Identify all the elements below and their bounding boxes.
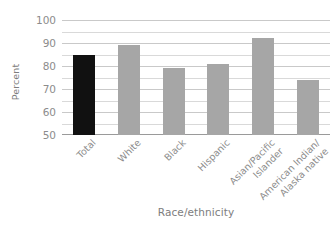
x-axis-tick-labels: TotalWhiteBlackHispanicAsian/Pacific Isl… (62, 135, 330, 207)
plot-area (62, 20, 330, 135)
bar-series (62, 20, 330, 135)
bar[interactable] (118, 45, 140, 135)
bar[interactable] (163, 68, 185, 135)
y-tick-label: 70 (26, 84, 56, 95)
y-axis-title: Percent (10, 52, 21, 112)
bar[interactable] (73, 55, 95, 136)
bar-slot (62, 20, 107, 135)
bar[interactable] (297, 80, 319, 135)
y-tick-label: 50 (26, 130, 56, 141)
bar-slot (107, 20, 152, 135)
bar-slot (285, 20, 330, 135)
y-tick-label: 60 (26, 107, 56, 118)
bar-slot (151, 20, 196, 135)
bar-slot (196, 20, 241, 135)
bar-slot (241, 20, 286, 135)
y-tick-label: 100 (26, 15, 56, 26)
y-tick-label: 90 (26, 38, 56, 49)
bar-chart: Percent 1009080706050 TotalWhiteBlackHis… (0, 0, 336, 229)
bar[interactable] (252, 38, 274, 135)
y-tick-label: 80 (26, 61, 56, 72)
bar[interactable] (207, 64, 229, 135)
x-axis-title: Race/ethnicity (62, 206, 330, 218)
